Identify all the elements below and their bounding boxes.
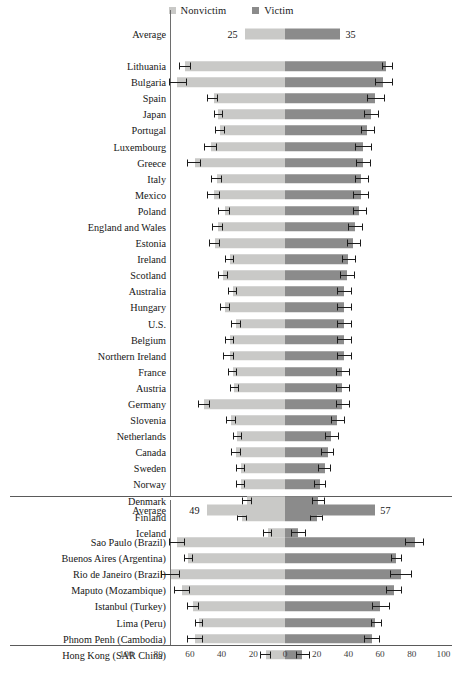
error-bar (337, 352, 351, 359)
error-bar-cap-high (190, 63, 191, 70)
category-row: Norway (0, 476, 462, 492)
bar-nonvictim (217, 174, 285, 184)
axis-tick-label: 80 (407, 649, 416, 659)
category-row: Luxembourg (0, 138, 462, 154)
error-bar-cap-low (218, 272, 219, 279)
error-bar-cap-high (198, 603, 199, 610)
error-bar (371, 619, 382, 626)
row-plot (176, 412, 458, 428)
row-plot (176, 267, 458, 283)
row-plot (176, 598, 458, 614)
error-bar-cap-low (161, 571, 162, 578)
error-bar-shaft (356, 162, 370, 163)
value-label-nonvictim: 49 (189, 505, 199, 516)
row-label: Germany (128, 399, 166, 410)
error-bar (347, 240, 361, 247)
bar-victim (285, 77, 383, 87)
error-bar-cap-high (384, 95, 385, 102)
row-label: Portugal (131, 125, 166, 136)
error-bar-cap-high (368, 191, 369, 198)
error-bar (230, 384, 240, 391)
error-bar-cap-high (221, 175, 222, 182)
bar-victim (285, 569, 401, 579)
bar-victim (285, 351, 344, 361)
category-row: Rio de Janeiro (Brazil) (0, 566, 462, 582)
error-bar-cap-high (351, 352, 352, 359)
bar-nonvictim (193, 602, 285, 612)
category-row: Spain (0, 90, 462, 106)
row-label: Bulgaria (131, 77, 166, 88)
error-bar-cap-high (179, 571, 180, 578)
row-label: Phnom Penh (Cambodia) (63, 633, 166, 644)
error-bar-cap-high (381, 619, 382, 626)
error-bar (336, 401, 350, 408)
error-bar-cap-low (209, 240, 210, 247)
error-bar (207, 95, 218, 102)
error-bar-cap-low (367, 95, 368, 102)
bar-victim (285, 110, 371, 120)
error-bar-cap-low (371, 619, 372, 626)
bar-victim (285, 93, 375, 103)
error-bar-cap-high (236, 288, 237, 295)
error-bar-cap-high (229, 207, 230, 214)
axis-tick-label: 100 (120, 649, 134, 659)
error-bar-shaft (174, 590, 190, 591)
bar-victim (285, 634, 372, 644)
bar-nonvictim (214, 190, 285, 200)
bar-nonvictim (218, 222, 285, 232)
error-bar-cap-low (337, 336, 338, 343)
error-bar-cap-low (337, 288, 338, 295)
error-bar-shaft (187, 638, 203, 639)
row-label: Luxembourg (114, 141, 166, 152)
error-bar-cap-low (364, 111, 365, 118)
error-bar-shaft (355, 178, 369, 179)
panel-countries: Average2535LithuaniaBulgariaSpainJapanPo… (0, 24, 462, 541)
error-bar-shaft (361, 130, 375, 131)
row-label: Rio de Janeiro (Brazil) (73, 569, 166, 580)
bar-nonvictim (241, 480, 285, 490)
bar-victim (285, 537, 415, 547)
error-bar (391, 555, 402, 562)
row-label: Northern Ireland (98, 350, 166, 361)
error-bar-cap-high (330, 465, 331, 472)
error-bar (375, 79, 392, 86)
category-row: Australia (0, 283, 462, 299)
category-row: Greece (0, 155, 462, 171)
bar-victim (285, 586, 394, 596)
error-bar (355, 143, 372, 150)
category-row: Poland (0, 203, 462, 219)
error-bar-cap-low (314, 481, 315, 488)
error-bar-cap-high (411, 571, 412, 578)
category-row: Portugal (0, 122, 462, 138)
error-bar-cap-high (192, 555, 193, 562)
error-bar-shaft (353, 194, 369, 195)
error-bar-cap-low (236, 465, 237, 472)
error-bar-shaft (405, 542, 424, 543)
error-bar-cap-low (342, 256, 343, 263)
category-row: Belgium (0, 332, 462, 348)
category-row: Japan (0, 106, 462, 122)
error-bar (215, 127, 225, 134)
error-bar-cap-low (355, 143, 356, 150)
error-bar-cap-high (349, 384, 350, 391)
error-bar-cap-low (355, 175, 356, 182)
error-bar (207, 191, 220, 198)
row-label: Slovenia (130, 415, 166, 426)
error-bar (161, 571, 180, 578)
row-label: Netherlands (117, 431, 166, 442)
row-plot (176, 299, 458, 315)
average-row: Average4957 (0, 500, 462, 520)
bar-nonvictim (215, 238, 285, 248)
error-bar (386, 587, 402, 594)
error-bar-shaft (337, 355, 351, 356)
error-bar-cap-low (356, 159, 357, 166)
error-bar-shaft (337, 339, 351, 340)
error-bar-cap-low (347, 240, 348, 247)
error-bar (187, 603, 200, 610)
error-bar-shaft (367, 98, 384, 99)
bar-nonvictim (234, 383, 285, 393)
error-bar-cap-high (423, 539, 424, 546)
error-bar-shaft (337, 307, 351, 308)
bar-victim (285, 287, 344, 297)
error-bar-cap-low (207, 95, 208, 102)
